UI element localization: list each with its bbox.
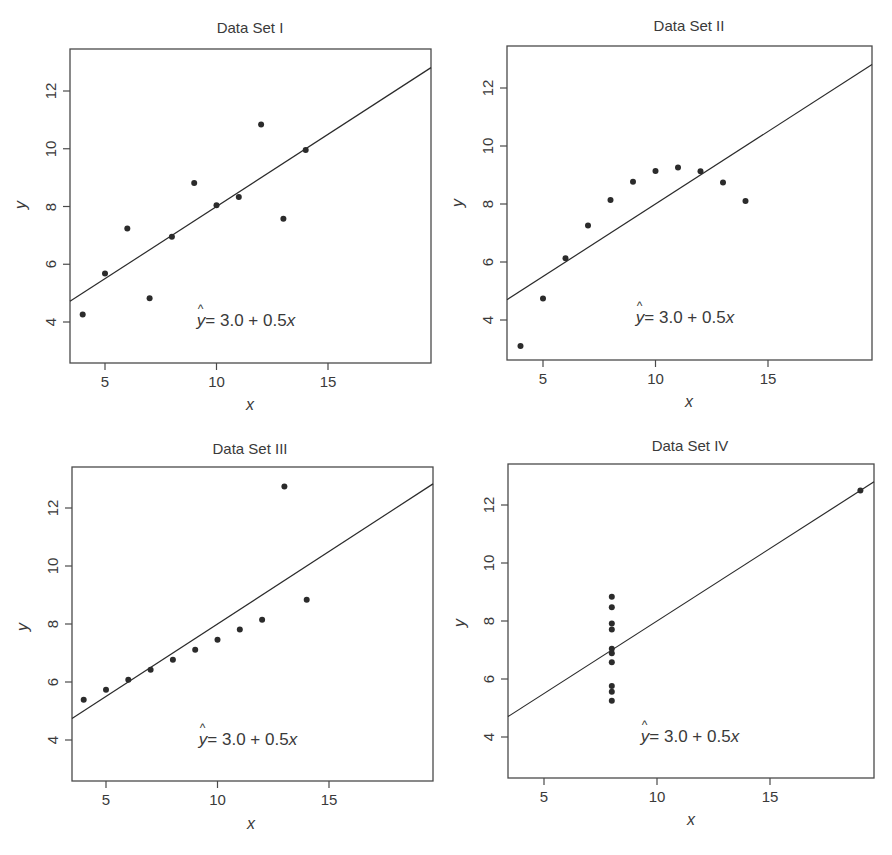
plot-area bbox=[0, 0, 892, 855]
equation-body: = 3.0 + 0.5 bbox=[649, 727, 730, 746]
x-tick-label: 5 bbox=[539, 370, 547, 387]
x-tick-label: 15 bbox=[760, 370, 777, 387]
regression-equation: y= 3.0 + 0.5x bbox=[197, 311, 295, 331]
panel-title: Data Set II bbox=[654, 17, 725, 34]
y-tick-label: 8 bbox=[480, 617, 497, 625]
x-axis-label: x bbox=[246, 396, 254, 414]
x-axis-label: x bbox=[687, 811, 695, 829]
y-tick-label: 4 bbox=[479, 316, 496, 324]
y-tick-label: 12 bbox=[479, 80, 496, 97]
y-tick-label: 4 bbox=[42, 318, 59, 326]
x-tick-label: 15 bbox=[762, 788, 779, 805]
y-tick-label: 6 bbox=[480, 675, 497, 683]
equation-variable: x bbox=[731, 727, 740, 746]
data-point bbox=[609, 650, 615, 656]
y-tick-label: 6 bbox=[42, 260, 59, 268]
x-tick-label: 15 bbox=[321, 791, 338, 808]
y-hat-symbol: y bbox=[199, 730, 208, 750]
y-hat-symbol: y bbox=[641, 727, 650, 747]
x-tick-label: 10 bbox=[649, 788, 666, 805]
y-tick-label: 8 bbox=[42, 202, 59, 210]
y-tick-label: 4 bbox=[480, 733, 497, 741]
data-point bbox=[609, 621, 615, 627]
equation-variable: x bbox=[289, 730, 298, 749]
x-tick-label: 10 bbox=[647, 370, 664, 387]
regression-equation: y= 3.0 + 0.5x bbox=[641, 727, 739, 747]
equation-variable: x bbox=[287, 311, 296, 330]
panel-title: Data Set I bbox=[217, 19, 284, 36]
data-point bbox=[609, 698, 615, 704]
y-tick-label: 10 bbox=[44, 558, 61, 575]
equation-body: = 3.0 + 0.5 bbox=[644, 308, 725, 327]
y-tick-label: 12 bbox=[44, 500, 61, 517]
y-tick-label: 4 bbox=[44, 736, 61, 744]
y-axis-label: y bbox=[14, 623, 32, 631]
x-axis-label: x bbox=[247, 815, 255, 833]
y-tick-label: 12 bbox=[480, 497, 497, 514]
y-tick-label: 6 bbox=[479, 258, 496, 266]
x-tick-label: 5 bbox=[101, 373, 109, 390]
data-point bbox=[609, 689, 615, 695]
data-point bbox=[857, 488, 863, 494]
regression-equation: y= 3.0 + 0.5x bbox=[636, 308, 734, 328]
y-hat-symbol: y bbox=[197, 311, 206, 331]
panel-title: Data Set IV bbox=[652, 437, 729, 454]
data-point bbox=[609, 604, 615, 610]
data-point bbox=[609, 594, 615, 600]
x-tick-label: 10 bbox=[209, 791, 226, 808]
y-tick-label: 6 bbox=[44, 678, 61, 686]
data-point bbox=[609, 659, 615, 665]
regression-line bbox=[508, 482, 874, 717]
x-tick-label: 15 bbox=[320, 373, 337, 390]
equation-body: = 3.0 + 0.5 bbox=[207, 730, 288, 749]
x-axis-label: x bbox=[685, 393, 693, 411]
equation-variable: x bbox=[726, 308, 735, 327]
regression-equation: y= 3.0 + 0.5x bbox=[199, 730, 297, 750]
y-axis-label: y bbox=[449, 199, 467, 207]
x-tick-label: 5 bbox=[102, 791, 110, 808]
y-hat-symbol: y bbox=[636, 308, 645, 328]
y-axis-label: y bbox=[451, 619, 469, 627]
equation-body: = 3.0 + 0.5 bbox=[205, 311, 286, 330]
y-tick-label: 10 bbox=[42, 140, 59, 157]
y-tick-label: 8 bbox=[44, 620, 61, 628]
data-point bbox=[609, 626, 615, 632]
y-axis-label: y bbox=[12, 201, 30, 209]
y-tick-label: 8 bbox=[479, 200, 496, 208]
x-tick-label: 10 bbox=[208, 373, 225, 390]
data-point bbox=[609, 683, 615, 689]
x-tick-label: 5 bbox=[540, 788, 548, 805]
panel-title: Data Set III bbox=[212, 440, 287, 457]
y-tick-label: 10 bbox=[480, 555, 497, 572]
y-tick-label: 10 bbox=[479, 138, 496, 155]
y-tick-label: 12 bbox=[42, 83, 59, 100]
